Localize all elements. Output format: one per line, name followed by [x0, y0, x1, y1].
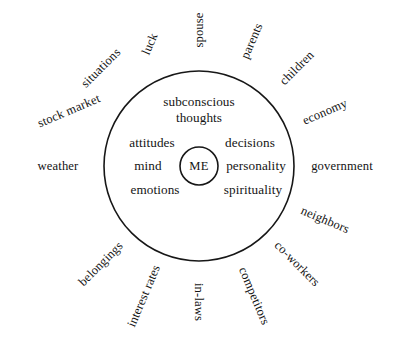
- inner-label-personality: personality: [226, 159, 286, 172]
- outer-label-spouse: spouse: [193, 12, 206, 47]
- inner-label-decisions: decisions: [225, 136, 275, 149]
- inner-label-attitudes: attitudes: [129, 136, 175, 149]
- diagram-canvas: ME subconscious thoughtsattitudesdecisio…: [0, 0, 399, 361]
- outer-label-government: government: [311, 160, 373, 173]
- inner-label-spirituality: spirituality: [224, 183, 282, 196]
- inner-label-subconscious-thoughts: subconscious thoughts: [144, 94, 254, 125]
- outer-label-in-laws: in-laws: [193, 283, 206, 321]
- outer-label-weather: weather: [38, 160, 79, 173]
- me-center-label: ME: [189, 160, 209, 173]
- inner-label-mind: mind: [134, 159, 162, 172]
- inner-label-emotions: emotions: [130, 183, 179, 196]
